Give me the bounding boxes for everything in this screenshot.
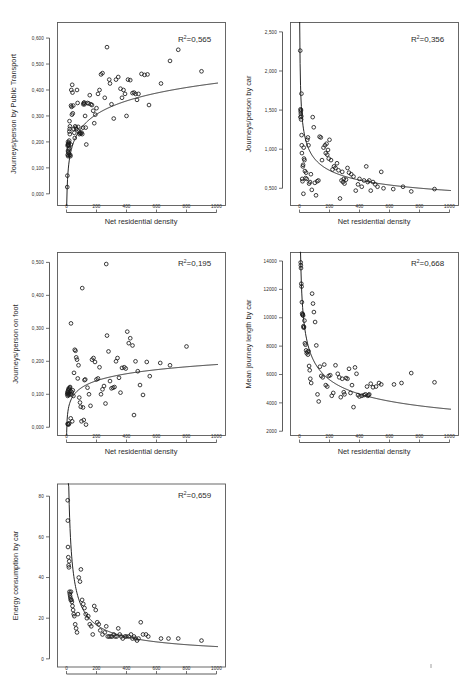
data-point xyxy=(92,121,96,125)
data-point xyxy=(360,185,364,189)
data-point xyxy=(72,371,76,375)
r2-annotation: R2=0,659 xyxy=(178,490,212,500)
data-point xyxy=(86,386,90,390)
data-point xyxy=(158,361,162,365)
y-tick-label: 0 xyxy=(41,657,44,662)
data-point xyxy=(68,124,72,128)
y-tick-label: 2000 xyxy=(266,429,277,434)
x-axis-title: Net residential density xyxy=(105,447,178,456)
data-point xyxy=(159,82,163,86)
x-tick-label: 600 xyxy=(385,204,393,209)
data-point xyxy=(128,336,132,340)
data-point xyxy=(112,117,116,121)
r2-value: =0,565 xyxy=(187,35,212,44)
data-point xyxy=(66,545,70,549)
x-tick-label: 1000 xyxy=(211,434,222,439)
data-point xyxy=(400,381,404,385)
data-point xyxy=(117,376,121,380)
data-point xyxy=(309,381,313,385)
plot-frame xyxy=(58,23,226,206)
data-point xyxy=(301,179,305,183)
data-point xyxy=(308,377,312,381)
x-tick-label: 200 xyxy=(92,666,100,671)
data-point xyxy=(382,186,386,190)
x-tick-label: 600 xyxy=(152,666,160,671)
y-axis: 2000400060008000100001200014000 xyxy=(263,259,282,434)
x-tick-label: 800 xyxy=(415,204,423,209)
data-point xyxy=(87,392,91,396)
data-points xyxy=(298,49,436,201)
x-tick-label: 200 xyxy=(325,204,333,209)
data-point xyxy=(84,423,88,427)
r2-annotation: R2=0,668 xyxy=(411,258,445,268)
data-point xyxy=(311,302,315,306)
data-point xyxy=(93,360,97,364)
data-point xyxy=(120,96,124,100)
plot-frame xyxy=(291,23,459,206)
panel-journey-length-svg: 2000400060008000100001200014000 02004006… xyxy=(233,230,466,460)
y-axis-title: Journeys/person on foot xyxy=(11,304,20,383)
y-axis: 0,0000,1000,2000,3000,4000,500 xyxy=(32,260,50,430)
data-point xyxy=(84,143,88,147)
y-tick-label: 80 xyxy=(39,494,45,499)
y-axis: 0,5001,0001,5002,0002,500 xyxy=(265,30,283,191)
data-point xyxy=(306,136,310,140)
y-tick-label: 0,400 xyxy=(32,293,45,298)
data-point xyxy=(77,363,81,367)
panel-journey-length: 2000400060008000100001200014000 02004006… xyxy=(233,230,466,460)
regression-curve xyxy=(300,252,451,409)
data-point xyxy=(104,402,108,406)
regression-line xyxy=(67,364,218,432)
data-point xyxy=(88,93,92,97)
data-point xyxy=(107,78,111,82)
data-point xyxy=(71,604,75,608)
y-tick-label: 0,000 xyxy=(32,192,45,197)
data-point xyxy=(68,132,72,136)
regression-line xyxy=(300,22,451,191)
data-point xyxy=(74,627,78,631)
x-tick-label: 400 xyxy=(355,434,363,439)
data-point xyxy=(141,393,145,397)
panel-public-transport-svg: 0,0000,1000,2000,3000,4000,5000,600 0200… xyxy=(0,0,233,230)
data-point xyxy=(364,165,368,169)
data-point xyxy=(76,612,80,616)
x-axis-title: Net residential density xyxy=(105,217,178,226)
data-point xyxy=(352,175,356,179)
data-point xyxy=(102,384,106,388)
data-point xyxy=(77,396,81,400)
data-point xyxy=(67,559,71,563)
data-point xyxy=(98,365,102,369)
data-point xyxy=(107,350,111,354)
r2-value: =0,195 xyxy=(187,259,212,268)
y-tick-label: 0,300 xyxy=(32,114,45,119)
data-point xyxy=(200,639,204,643)
data-point xyxy=(334,363,338,367)
data-point xyxy=(168,59,172,63)
data-point xyxy=(303,319,307,323)
data-point xyxy=(312,125,316,129)
x-tick-label: 400 xyxy=(355,204,363,209)
data-point xyxy=(168,363,172,367)
data-points xyxy=(65,45,203,189)
y-tick-label: 12000 xyxy=(263,287,277,292)
r2-annotation: R2=0,356 xyxy=(411,34,445,44)
y-tick-label: 0,100 xyxy=(32,392,45,397)
data-point xyxy=(94,608,98,612)
data-points xyxy=(66,498,204,642)
data-point xyxy=(76,377,80,381)
data-point xyxy=(391,187,395,191)
data-point xyxy=(312,310,316,314)
y-tick-label: 0,300 xyxy=(32,326,45,331)
data-point xyxy=(66,519,70,523)
data-point xyxy=(310,188,314,192)
data-point xyxy=(66,555,70,559)
data-point xyxy=(71,608,75,612)
data-point xyxy=(116,627,120,631)
data-point xyxy=(300,151,304,155)
r2-value: =0,659 xyxy=(187,491,212,500)
x-tick-label: 1000 xyxy=(211,666,222,671)
regression-curve xyxy=(300,22,451,191)
data-point xyxy=(70,83,74,87)
x-axis-title: Net residential density xyxy=(338,217,411,226)
y-tick-label: 2,000 xyxy=(265,69,278,74)
